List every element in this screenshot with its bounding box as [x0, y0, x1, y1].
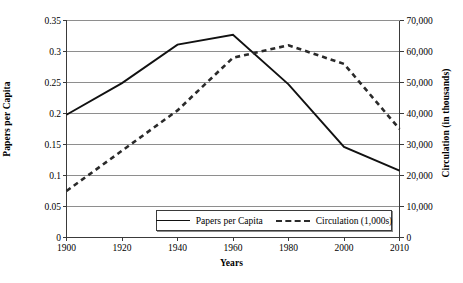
legend-dashed-line-icon	[276, 220, 310, 222]
legend-solid-line-icon	[156, 220, 190, 221]
data-series-group	[67, 35, 400, 191]
plot-frame	[67, 21, 400, 238]
axis-tick-marks	[63, 21, 404, 241]
data-series-line-1	[67, 35, 400, 171]
legend-item-circulation: Circulation (1,000s)	[276, 216, 393, 226]
plot-area	[0, 0, 463, 283]
gridlines	[67, 21, 400, 207]
chart-legend: Papers per Capita Circulation (1,000s)	[156, 210, 392, 231]
legend-item-papers-per-capita: Papers per Capita	[156, 216, 263, 226]
chart-figure: Papers per Capita Circulation (in thousa…	[0, 0, 463, 283]
legend-item-label: Circulation (1,000s)	[316, 216, 393, 226]
legend-item-label: Papers per Capita	[196, 216, 263, 226]
data-series-line-2	[67, 45, 400, 191]
